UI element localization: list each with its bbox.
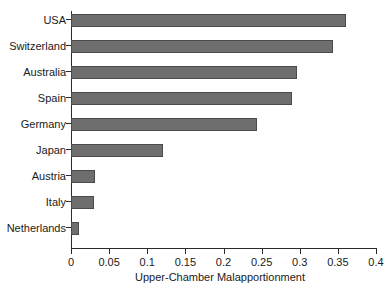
bar-australia xyxy=(71,66,297,79)
x-axis-ticks: 00.050.10.150.20.250.30.350.4 xyxy=(71,249,377,271)
x-axis-tick xyxy=(147,249,148,254)
bar-switzerland xyxy=(71,40,333,53)
plot-area xyxy=(71,11,376,248)
y-axis-label-germany: Germany xyxy=(21,118,66,130)
y-axis-label-netherlands: Netherlands xyxy=(7,222,66,234)
x-axis-tick xyxy=(185,249,186,254)
y-axis-label-italy: Italy xyxy=(46,196,66,208)
x-axis-tick xyxy=(224,249,225,254)
y-axis-label-australia: Australia xyxy=(23,66,66,78)
bar-row xyxy=(71,37,376,63)
x-axis-tick xyxy=(300,249,301,254)
x-axis-tick-label: 0.35 xyxy=(327,256,348,268)
x-axis-tick xyxy=(109,249,110,254)
y-axis-label-spain: Spain xyxy=(38,92,66,104)
bar-row xyxy=(71,89,376,115)
bar-row xyxy=(71,141,376,167)
x-axis-tick-label: 0.15 xyxy=(175,256,196,268)
x-axis-tick xyxy=(338,249,339,254)
y-axis-label-usa: USA xyxy=(43,14,66,26)
y-axis-label-austria: Austria xyxy=(32,170,66,182)
x-axis-tick-label: 0.4 xyxy=(368,256,383,268)
bar-italy xyxy=(71,196,94,209)
x-axis-tick-label: 0.2 xyxy=(216,256,231,268)
bar-germany xyxy=(71,118,257,131)
bar-usa xyxy=(71,14,346,27)
x-axis-tick-label: 0.3 xyxy=(292,256,307,268)
x-axis-tick-label: 0.1 xyxy=(140,256,155,268)
bar-japan xyxy=(71,144,163,157)
bar-row xyxy=(71,193,376,219)
bar-netherlands xyxy=(71,222,79,235)
x-axis-tick xyxy=(262,249,263,254)
y-axis-label-switzerland: Switzerland xyxy=(9,40,66,52)
x-axis-tick xyxy=(376,249,377,254)
bar-row xyxy=(71,115,376,141)
y-axis-label-japan: Japan xyxy=(36,144,66,156)
bar-row xyxy=(71,11,376,37)
y-axis-tick-labels: USASwitzerlandAustraliaSpainGermanyJapan… xyxy=(0,11,66,248)
x-axis-title: Upper-Chamber Malapportionment xyxy=(0,270,392,284)
bar-spain xyxy=(71,92,292,105)
bar-row xyxy=(71,219,376,245)
bar-chart: USASwitzerlandAustraliaSpainGermanyJapan… xyxy=(0,0,392,292)
x-axis-tick-label: 0.05 xyxy=(98,256,119,268)
x-axis-tick-label: 0.25 xyxy=(251,256,272,268)
bar-row xyxy=(71,167,376,193)
bar-austria xyxy=(71,170,95,183)
bar-row xyxy=(71,63,376,89)
x-axis-tick xyxy=(71,249,72,254)
x-axis-tick-label: 0 xyxy=(68,256,74,268)
